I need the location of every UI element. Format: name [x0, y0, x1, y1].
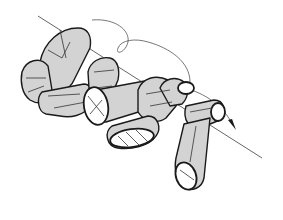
arrow-head-icon [228, 119, 236, 130]
tube-chain-diagram [0, 0, 283, 220]
segment-9 [172, 118, 210, 193]
illustration [0, 0, 283, 220]
segment-7 [107, 116, 159, 150]
